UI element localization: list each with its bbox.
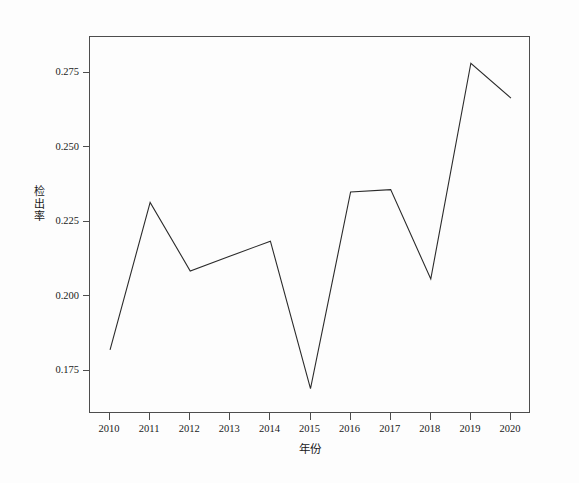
x-axis-tick-mark: [149, 413, 150, 420]
y-axis-tick-label: 0.250: [0, 141, 79, 152]
x-axis-tick-label: 2011: [126, 423, 172, 434]
chart-figure: 0.2750.2500.2250.2000.175 检出率 2010201120…: [0, 0, 579, 483]
x-axis-tick-mark: [350, 413, 351, 420]
x-axis-title: 年份: [89, 443, 530, 455]
y-axis-tick-label: 0.175: [0, 364, 79, 375]
x-axis-tick-mark: [269, 413, 270, 420]
x-axis-tick-mark: [470, 413, 471, 420]
x-axis-tick-label: 2010: [86, 423, 132, 434]
y-axis-tick-label: 0.200: [0, 290, 79, 301]
x-axis-tick-mark: [510, 413, 511, 420]
x-axis-tick-mark: [310, 413, 311, 420]
x-axis-tick-mark: [430, 413, 431, 420]
x-axis-tick-label: 2013: [206, 423, 252, 434]
x-axis-tick-label: 2015: [287, 423, 333, 434]
x-axis-tick-label: 2018: [407, 423, 453, 434]
series-polyline: [110, 63, 511, 388]
x-axis-tick-mark: [390, 413, 391, 420]
x-axis-tick-mark: [229, 413, 230, 420]
x-axis-tick-label: 2020: [487, 423, 533, 434]
x-axis-tick-mark: [109, 413, 110, 420]
y-axis-title: 检出率: [32, 186, 46, 224]
x-axis-tick-label: 2012: [166, 423, 212, 434]
x-axis-tick-label: 2019: [447, 423, 493, 434]
plot-area: [89, 36, 530, 413]
x-axis-tick-label: 2016: [327, 423, 373, 434]
x-axis-tick-label: 2017: [367, 423, 413, 434]
x-axis-tick-label: 2014: [246, 423, 292, 434]
x-axis-tick-mark: [189, 413, 190, 420]
line-series-detection-rate: [90, 37, 531, 414]
y-axis-tick-label: 0.275: [0, 66, 79, 77]
